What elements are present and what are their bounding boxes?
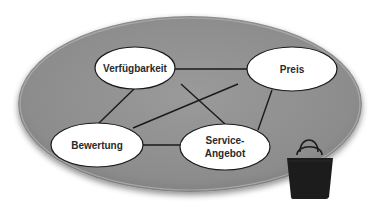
- node-label-verfuegbarkeit: Verfügbarkeit: [103, 63, 168, 74]
- diagram-canvas: Verfügbarkeit Preis Bewertung Service- A…: [0, 0, 376, 207]
- node-service-angebot: Service- Angebot: [180, 124, 270, 170]
- node-label-service-line2: Angebot: [205, 148, 246, 159]
- node-label-service-line1: Service-: [206, 135, 245, 146]
- network-diagram: Verfügbarkeit Preis Bewertung Service- A…: [0, 0, 376, 207]
- node-preis: Preis: [247, 47, 337, 91]
- node-label-preis: Preis: [280, 64, 305, 75]
- node-bewertung: Bewertung: [51, 123, 143, 167]
- node-label-bewertung: Bewertung: [71, 140, 123, 151]
- node-verfuegbarkeit: Verfügbarkeit: [95, 47, 175, 89]
